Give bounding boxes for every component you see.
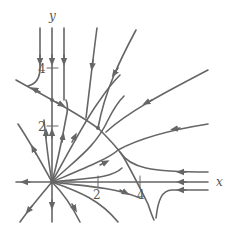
trajectory (106, 70, 208, 132)
equilibrium-saddle-upper (50, 98, 54, 102)
trajectory (20, 182, 52, 222)
trajectory (52, 168, 122, 182)
trajectory (156, 190, 208, 218)
trajectory (118, 124, 208, 150)
x-tick-label-4: 4 (137, 188, 145, 202)
separatrix-curve (16, 80, 154, 220)
trajectory (52, 150, 118, 182)
equilibrium-origin (50, 180, 54, 184)
trajectory (120, 152, 208, 172)
trajectory (28, 28, 40, 86)
trajectory (86, 28, 97, 118)
phase-portrait: y x 4 2 2 4 (0, 0, 234, 233)
x-axis-label: x (216, 175, 223, 189)
y-tick-label-2: 2 (38, 120, 46, 134)
y-axis-label: y (48, 9, 56, 23)
y-tick-label-4: 4 (38, 62, 46, 76)
equilibrium-saddle (96, 126, 100, 130)
x-tick-label-2: 2 (93, 188, 101, 202)
trajectory (52, 182, 118, 222)
